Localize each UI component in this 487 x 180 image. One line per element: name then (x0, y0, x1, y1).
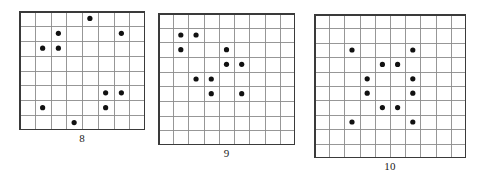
grid-dot (365, 91, 370, 96)
grid-dot (395, 105, 400, 110)
grid-dot (178, 32, 183, 37)
grid-dot (103, 105, 108, 110)
grid-panel-9: 9 (158, 13, 295, 163)
grid-dot (178, 47, 183, 52)
grid-dot (40, 105, 45, 110)
grid-dot (193, 32, 198, 37)
grid-dot (410, 119, 415, 124)
grid-dot (209, 76, 214, 81)
grid-canvas-8 (19, 11, 145, 130)
grid-dot (119, 90, 124, 95)
grid-canvas-10 (314, 14, 466, 158)
grid-dot (410, 76, 415, 81)
grid-background (314, 14, 466, 158)
grid-caption-9: 9 (158, 147, 295, 160)
grid-dot (365, 76, 370, 81)
grid-dot (72, 120, 77, 125)
grid-dot (239, 91, 244, 96)
grid-dot (56, 31, 61, 36)
grid-panel-8: 8 (19, 11, 145, 148)
grid-canvas-9 (158, 13, 295, 145)
grid-dot (103, 90, 108, 95)
grid-panel-10: 10 (314, 14, 466, 176)
grid-dot (349, 119, 354, 124)
grid-dot (56, 46, 61, 51)
grid-caption-10: 10 (314, 160, 466, 173)
grid-background (19, 11, 145, 130)
grid-dot (410, 47, 415, 52)
grid-dot (119, 31, 124, 36)
dot-grid-figure: 8910 (0, 0, 487, 180)
grid-dot (410, 91, 415, 96)
grid-dot (87, 16, 92, 21)
grid-dot (224, 62, 229, 67)
grid-dot (193, 76, 198, 81)
grid-caption-8: 8 (19, 132, 145, 145)
grid-dot (380, 105, 385, 110)
grid-dot (380, 62, 385, 67)
grid-dot (239, 62, 244, 67)
grid-dot (40, 46, 45, 51)
grid-dot (224, 47, 229, 52)
grid-dot (209, 91, 214, 96)
grid-dot (395, 62, 400, 67)
grid-dot (349, 47, 354, 52)
grid-background (158, 13, 295, 145)
